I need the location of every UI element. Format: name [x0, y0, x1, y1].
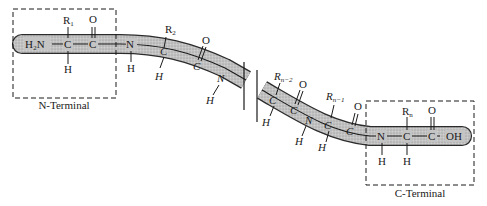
polypeptide-diagram: N-Terminal H₂N C R1 H C O N H C R2 H C: [0, 0, 487, 206]
amide-nitrogen-n: N: [377, 130, 385, 142]
amide-nitrogen-2: N: [126, 38, 134, 50]
diagram-canvas: N-Terminal H₂N C R1 H C O N H C R2 H C: [0, 0, 487, 206]
carbonyl-carbon-2: C: [193, 60, 201, 72]
alpha-hydrogen-2: H: [154, 70, 164, 82]
alpha-hydrogen-n: H: [403, 155, 411, 167]
amide-nitrogen-n-minus-1: N: [304, 114, 313, 126]
residue-n-minus-1: N H C Rn−1 H C O: [294, 90, 362, 153]
side-chain-r-n-minus-2: Rn−2: [273, 70, 293, 84]
carbonyl-oxygen-n-minus-1: O: [354, 100, 362, 112]
hydroxyl-group: OH: [446, 130, 462, 142]
alpha-hydrogen-n-minus-1: H: [317, 141, 327, 153]
amide-nitrogen-3: N: [216, 72, 225, 84]
amine-group: H₂N: [25, 38, 45, 50]
alpha-carbon-n: C: [403, 130, 410, 142]
amide-hydrogen-2: H: [127, 62, 135, 74]
carbonyl-oxygen-1: O: [89, 13, 97, 25]
carbonyl-carbon-n-minus-2: C: [290, 104, 298, 116]
c-terminal-label: C-Terminal: [395, 187, 446, 199]
alpha-hydrogen-1: H: [64, 63, 72, 75]
side-chain-r-n-minus-1: Rn−1: [325, 90, 344, 104]
alpha-hydrogen-n-minus-2: H: [261, 116, 271, 128]
carbonyl-carbon-n-minus-1: C: [346, 125, 354, 137]
n-terminal-label: N-Terminal: [38, 99, 89, 111]
alpha-carbon-n-minus-1: C: [324, 119, 332, 131]
amide-hydrogen-3: H: [205, 94, 215, 106]
amide-hydrogen-n-minus-1: H: [294, 135, 304, 147]
carbonyl-oxygen-n: O: [428, 104, 436, 116]
carbonyl-oxygen-n-minus-2: O: [299, 78, 307, 90]
alpha-carbon-2: C: [160, 45, 168, 57]
alpha-carbon-n-minus-2: C: [269, 94, 277, 106]
amide-hydrogen-n: H: [378, 155, 386, 167]
alpha-carbon-1: C: [64, 38, 71, 50]
side-chain-r2: R2: [165, 23, 176, 37]
carbonyl-carbon-n: C: [428, 130, 435, 142]
backbone-band-right: [262, 90, 472, 146]
side-chain-rn: Rn: [402, 105, 413, 119]
carbonyl-carbon-1: C: [89, 38, 96, 50]
side-chain-r1: R1: [63, 14, 74, 28]
carbonyl-oxygen-2: O: [202, 34, 210, 46]
